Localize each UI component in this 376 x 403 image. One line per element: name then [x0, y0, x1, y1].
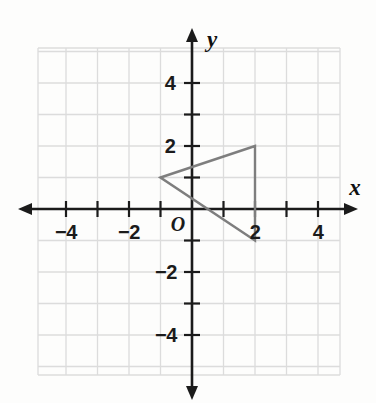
y-axis-arrow-down	[186, 386, 198, 400]
x-axis-arrow-left	[18, 203, 32, 215]
y-tick-label-neg2: −2	[155, 261, 177, 284]
x-tick-label-neg2: −2	[118, 221, 140, 244]
origin-label: O	[171, 213, 185, 236]
y-axis-label: y	[207, 27, 217, 53]
y-tick-label-neg4: −4	[155, 324, 177, 347]
x-tick-label-2: 2	[250, 221, 261, 244]
grid-background	[38, 48, 340, 375]
y-tick-label-2: 2	[165, 135, 176, 158]
y-tick-label-4: 4	[165, 72, 176, 95]
x-tick-label-4: 4	[313, 221, 324, 244]
coordinate-plane-svg	[0, 0, 376, 403]
x-axis-label: x	[349, 175, 361, 201]
coordinate-plane-figure: −4 −2 2 4 4 2 −2 −4 O x y	[0, 0, 376, 403]
y-axis-arrow-up	[186, 28, 198, 42]
x-tick-label-neg4: −4	[55, 221, 77, 244]
x-axis-arrow-right	[344, 203, 358, 215]
